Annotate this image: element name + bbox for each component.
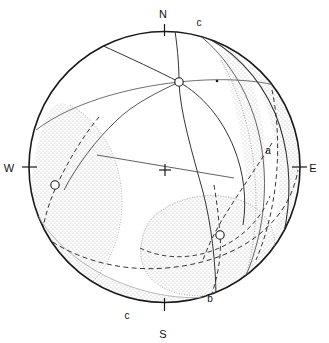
east-label: E [309,162,316,174]
pole-upper-marker [175,78,183,86]
c-bottom-label: c [125,310,130,321]
tick-dot-marker [216,80,219,83]
stereonet-figure: N S E W c c a b [0,0,329,343]
north-label: N [159,8,167,20]
b-bottom-label: b [207,293,213,304]
c-top-label: c [197,17,202,28]
a-right-label: a [265,145,271,156]
pole-lower-marker [216,231,224,239]
stereonet-canvas: N S E W c c a b [0,0,329,343]
pole-left-marker [51,181,59,189]
west-label: W [4,162,15,174]
south-label: S [159,328,166,340]
